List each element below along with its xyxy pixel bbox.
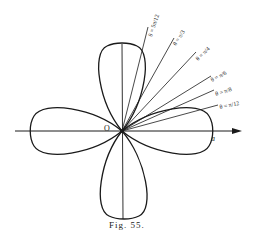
rose-curve-diagram: O a θ = 5π/12 θ = π/3 θ = π/4 θ = π/6 θ … — [0, 0, 254, 236]
ray-label-pi-6: θ = π/6 — [210, 70, 228, 83]
ray-label-pi-12: θ = π/12 — [219, 100, 240, 110]
figure-caption: Fig. 55. — [0, 220, 254, 230]
origin-label: O — [104, 124, 110, 133]
rose-leaf-bottom — [100, 131, 147, 219]
axis-end-label: a — [211, 134, 215, 143]
axis-arrow-icon — [232, 128, 242, 134]
ray-label-5pi-12: θ = 5π/12 — [147, 14, 160, 38]
ray-label-pi-8: θ = π/8 — [214, 86, 232, 97]
ray-label-pi-3: θ = π/3 — [172, 29, 186, 47]
ray-pi-3 — [122, 38, 174, 131]
ray-pi-6 — [122, 76, 211, 131]
ray-pi-4 — [122, 52, 196, 131]
ray-label-pi-4: θ = π/4 — [195, 46, 211, 62]
origin-point — [120, 129, 124, 133]
ray-pi-8 — [122, 90, 214, 131]
